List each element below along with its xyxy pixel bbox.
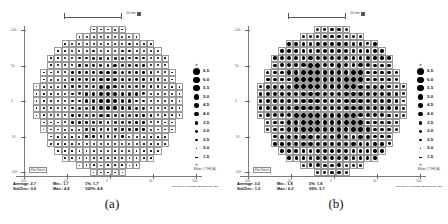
die-value-dot: [302, 35, 305, 38]
die-value-dot: [113, 85, 116, 88]
die-value-dot: [113, 64, 116, 67]
scale-bar-a: 10 mm: [64, 11, 140, 22]
die-value-dot: [85, 121, 88, 124]
die-value-dot: [78, 71, 81, 74]
die-value-dot: [366, 99, 370, 103]
die-value-dot: [142, 85, 145, 88]
die-value-dot: [366, 92, 370, 96]
wafer-die-cell: [371, 105, 378, 112]
y-axis-tick: [21, 101, 26, 102]
wafer-die-cell: [371, 76, 378, 83]
die-value-dot: [294, 106, 299, 111]
die-value-dot: [316, 163, 320, 167]
die-value-dot: [309, 49, 313, 53]
die-value-dot: [64, 79, 66, 81]
wafer-die-cell: [154, 112, 161, 119]
legend-dot-icon: [414, 112, 427, 116]
y-axis-tick: [21, 66, 26, 67]
die-value-dot: [93, 36, 95, 38]
die-value-dot: [301, 135, 305, 139]
die-value-dot: [157, 136, 159, 138]
wafer-die-cell: [386, 76, 393, 83]
wafer-die-cell: [378, 105, 385, 112]
wafer-die-cell: [314, 126, 321, 133]
die-value-dot: [64, 93, 67, 96]
die-value-dot: [287, 92, 291, 96]
die-value-dot: [366, 127, 370, 131]
die-value-dot: [106, 106, 109, 109]
die-value-dot: [352, 35, 355, 38]
wafer-die-cell: [133, 69, 140, 76]
die-value-dot: [150, 150, 152, 152]
scale-bar-line: [64, 17, 122, 18]
wafer-die-cell: [83, 140, 90, 147]
wafer-die-cell: [126, 126, 133, 133]
die-value-dot: [71, 78, 74, 81]
die-value-dot: [337, 171, 340, 174]
y-axis-tick-label: -50: [235, 135, 239, 139]
die-value-dot: [121, 64, 124, 67]
die-value-dot: [345, 171, 348, 174]
wafer-die-cell: [321, 62, 328, 69]
wafer-die-cell: [162, 119, 169, 126]
wafer-die-cell: [104, 69, 111, 76]
wafer-die-cell: [69, 97, 76, 104]
die-value-dot: [273, 113, 277, 117]
wafer-die-cell: [378, 147, 385, 154]
die-value-dot: [380, 106, 384, 110]
wafer-die-cell: [357, 40, 364, 47]
die-value-dot: [266, 78, 270, 82]
legend-dot-icon: [190, 85, 203, 91]
y-axis-tick-label: -100: [11, 170, 17, 174]
wafer-die-cell: [33, 105, 40, 112]
die-value-dot: [330, 156, 334, 160]
die-value-dot: [57, 114, 59, 116]
die-value-dot: [358, 77, 362, 81]
wafer-die-cell: [271, 83, 278, 90]
scale-bar-tick-right: [345, 13, 346, 19]
die-value-dot: [71, 129, 73, 131]
die-value-dot: [85, 99, 88, 102]
die-value-dot: [351, 99, 355, 103]
die-value-dot: [150, 114, 153, 117]
wafer-die-cell: [286, 97, 293, 104]
die-value-dot: [71, 143, 73, 145]
y-axis-tick: [245, 66, 250, 67]
die-value-dot: [294, 70, 298, 74]
die-value-dot: [114, 121, 117, 124]
die-value-dot: [92, 128, 95, 131]
wafer-die-cell: [336, 90, 343, 97]
die-value-dot: [323, 164, 326, 167]
die-value-dot: [280, 99, 284, 103]
wafer-die-cell: [69, 55, 76, 62]
legend-value-label: 3.0: [427, 129, 433, 133]
wafer-die-cell: [357, 162, 364, 169]
wafer-die-cell: [154, 62, 161, 69]
die-value-dot: [71, 64, 73, 66]
die-value-dot: [315, 99, 320, 104]
die-value-dot: [294, 113, 299, 118]
wafer-die-cell: [386, 112, 393, 119]
die-value-dot: [323, 70, 328, 75]
wafer-die-cell: [97, 97, 104, 104]
die-value-dot: [92, 64, 95, 67]
wafer-die-cell: [343, 83, 350, 90]
wafer-die-cell: [90, 140, 97, 147]
die-value-dot: [121, 157, 123, 159]
die-value-dot: [380, 121, 384, 125]
wafer-die-cell: [176, 97, 183, 104]
die-value-dot: [57, 100, 59, 102]
die-value-dot: [380, 149, 383, 152]
die-value-dot: [128, 92, 131, 95]
die-value-dot: [351, 70, 355, 74]
panel-caption-b: (b): [224, 196, 448, 212]
die-value-dot: [359, 142, 363, 146]
wafer-die-cell: [83, 40, 90, 47]
legend-row: 3.5: [190, 119, 220, 128]
die-value-dot: [135, 128, 138, 131]
wafer-die-cell: [314, 47, 321, 54]
die-value-dot: [359, 56, 363, 60]
wafer-die-cell: [286, 155, 293, 162]
wafer-die-cell: [76, 47, 83, 54]
wafer-die-cell: [47, 133, 54, 140]
